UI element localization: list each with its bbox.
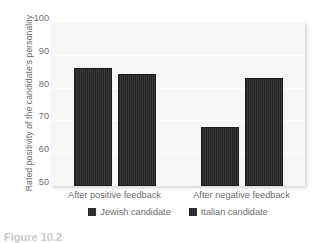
x-axis-category-labels: After positive feedbackAfter negative fe… [51, 188, 305, 202]
legend-swatch-icon [189, 208, 197, 216]
x-label-0: After positive feedback [51, 188, 178, 202]
bar-jewish-candidate-after-negative-feedback [201, 127, 239, 186]
y-tick-label-50: 50 [19, 177, 49, 187]
y-tick-label-90: 90 [19, 46, 49, 56]
bar-italian-candidate-after-negative-feedback [245, 78, 283, 186]
plot-area [51, 22, 305, 186]
gridline-90 [51, 55, 305, 56]
legend-swatch-icon [88, 208, 96, 216]
bar-italian-candidate-after-positive-feedback [118, 74, 156, 186]
y-axis-tick-labels: 1009080706050 [19, 18, 49, 188]
y-tick-label-70: 70 [19, 111, 49, 121]
chart-legend: Jewish candidateItalian candidate [51, 205, 305, 219]
legend-entry-1: Italian candidate [189, 207, 268, 217]
legend-label: Jewish candidate [100, 207, 170, 217]
y-tick-label-60: 60 [19, 144, 49, 154]
legend-entry-0: Jewish candidate [88, 207, 170, 217]
bar-jewish-candidate-after-positive-feedback [74, 68, 112, 186]
figure-caption: Figure 10.2 [4, 231, 62, 243]
y-tick-label-100: 100 [19, 13, 49, 23]
x-label-1: After negative feedback [178, 188, 305, 202]
y-tick-label-80: 80 [19, 79, 49, 89]
legend-label: Italian candidate [201, 207, 268, 217]
gridline-100 [51, 22, 305, 23]
